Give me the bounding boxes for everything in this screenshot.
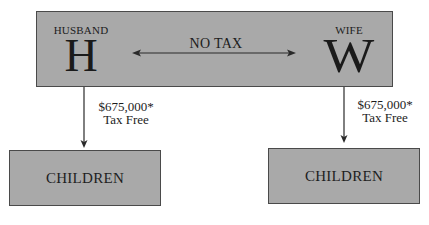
children-label: CHILDREN — [10, 170, 160, 187]
husband-node: HUSBAND H — [51, 25, 111, 76]
wife-node: WIFE W — [319, 25, 379, 76]
husband-transfer-amount: $675,000* Tax Free — [90, 100, 162, 126]
amount-note: Tax Free — [90, 113, 162, 126]
arrow-down-right-icon — [341, 87, 348, 143]
no-tax-label: NO TAX — [141, 36, 291, 52]
spouses-box: HUSBAND H NO TAX WIFE W — [36, 11, 393, 87]
wife-transfer-amount: $675,000* Tax Free — [349, 98, 421, 124]
wife-initial: W — [315, 36, 382, 76]
children-box-right: CHILDREN — [268, 148, 420, 204]
amount-note: Tax Free — [349, 111, 421, 124]
children-box-left: CHILDREN — [9, 150, 161, 206]
husband-initial: H — [51, 36, 111, 76]
children-label: CHILDREN — [269, 168, 419, 185]
arrow-down-left-icon — [81, 87, 88, 148]
